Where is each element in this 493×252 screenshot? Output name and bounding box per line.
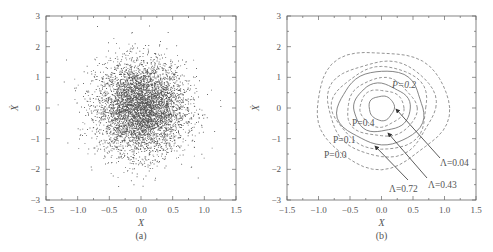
xtick-a-1: −1.0 bbox=[70, 205, 87, 215]
xtick-b-2: −0.5 bbox=[342, 205, 359, 215]
ytick-a-3: 0 bbox=[36, 103, 41, 113]
annotation-p01: P=0.1 bbox=[333, 135, 356, 145]
arrow-lambda-072 bbox=[375, 146, 408, 180]
panel-a: 3 2 1 0 −1 −2 −3 −1.5 −1.0 −0.5 0.0 0.5 … bbox=[9, 11, 242, 242]
panel-label-a: (a) bbox=[135, 230, 146, 242]
annotation-lambda-043: Λ=0.43 bbox=[428, 180, 457, 190]
ytick-a-5: −2 bbox=[30, 164, 40, 174]
xtick-b-6: 1.5 bbox=[470, 205, 482, 215]
annotation-p00: P=0.0 bbox=[324, 150, 347, 160]
ytick-a-4: −1 bbox=[30, 134, 40, 144]
annotation-lambda-004: Λ=0.04 bbox=[440, 158, 469, 168]
ytick-b-5: −2 bbox=[271, 164, 281, 174]
ytick-a-2: 1 bbox=[36, 72, 41, 82]
ytick-a-0: 3 bbox=[36, 11, 41, 21]
ytick-b-3: 0 bbox=[277, 103, 282, 113]
xtick-b-3: 0.0 bbox=[376, 205, 388, 215]
panel-label-b: (b) bbox=[376, 230, 388, 242]
ytick-b-0: 3 bbox=[277, 11, 282, 21]
scatter-points bbox=[58, 26, 237, 187]
ylabel-b: Ẋ bbox=[250, 104, 261, 112]
annotation-lambda-072: Λ=0.72 bbox=[389, 184, 418, 194]
annotation-p02: P=0.2 bbox=[391, 80, 416, 90]
figure: 3 2 1 0 −1 −2 −3 −1.5 −1.0 −0.5 0.0 0.5 … bbox=[0, 0, 493, 252]
xtick-a-5: 1.0 bbox=[198, 205, 210, 215]
xtick-b-0: −1.5 bbox=[279, 205, 296, 215]
ytick-b-4: −1 bbox=[271, 134, 281, 144]
ytick-a-1: 2 bbox=[36, 42, 41, 52]
xtick-b-5: 1.0 bbox=[439, 205, 451, 215]
ylabel-a: Ẋ bbox=[9, 104, 20, 112]
ytick-b-1: 2 bbox=[277, 42, 282, 52]
ytick-b-6: −3 bbox=[271, 195, 281, 205]
arrow-lambda-004 bbox=[396, 109, 440, 158]
arrow-lambda-043 bbox=[388, 133, 427, 178]
xtick-a-2: −0.5 bbox=[101, 205, 118, 215]
xlabel-b: X bbox=[377, 217, 385, 228]
panel-b: 3 2 1 0 −1 −2 −3 −1.5 −1.0 −0.5 0.0 0.5 … bbox=[250, 11, 482, 242]
xtick-b-4: 0.5 bbox=[407, 205, 419, 215]
ytick-a-6: −3 bbox=[30, 195, 40, 205]
ticks-b bbox=[287, 16, 476, 200]
xtick-a-0: −1.5 bbox=[38, 205, 55, 215]
xlabel-a: X bbox=[137, 217, 145, 228]
xtick-a-3: 0.0 bbox=[135, 205, 147, 215]
xtick-b-1: −1.0 bbox=[310, 205, 327, 215]
xtick-a-6: 1.5 bbox=[230, 205, 242, 215]
annotation-p04: P=0.4 bbox=[352, 118, 375, 128]
ytick-b-2: 1 bbox=[277, 72, 282, 82]
plot-frame-b bbox=[287, 16, 476, 200]
xtick-a-4: 0.5 bbox=[167, 205, 179, 215]
